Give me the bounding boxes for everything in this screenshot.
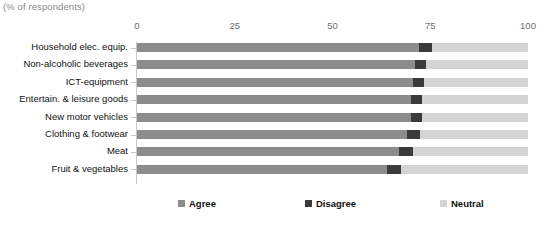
category-tick-mark (131, 135, 136, 136)
bar-segment-neutral (422, 95, 528, 104)
bar-segment-disagree (411, 95, 423, 104)
bar-segment-neutral (424, 78, 528, 87)
bar-row (137, 147, 528, 156)
bar-segment-agree (137, 95, 411, 104)
bar-row (137, 60, 528, 69)
bar-segment-agree (137, 60, 415, 69)
category-label: ICT-equipment (66, 77, 128, 87)
bar-segment-disagree (407, 130, 421, 139)
chart-legend: AgreeDisagreeNeutral (0, 198, 549, 214)
bar-row (137, 130, 528, 139)
category-tick-mark (131, 65, 136, 66)
legend-swatch-icon (440, 200, 447, 207)
bar-segment-neutral (422, 113, 528, 122)
bar-segment-disagree (419, 43, 433, 52)
category-label: New motor vehicles (45, 112, 128, 122)
category-tick-mark (131, 152, 136, 153)
x-axis-tick-labels: 0255075100 (137, 20, 528, 34)
category-axis-labels: Household elec. equip.Non-alcoholic beve… (0, 40, 133, 184)
category-label: Meat (107, 146, 128, 156)
bar-segment-neutral (420, 130, 528, 139)
legend-item-neutral[interactable]: Neutral (440, 198, 484, 209)
legend-item-agree[interactable]: Agree (178, 198, 216, 209)
bar-segment-agree (137, 165, 387, 174)
category-tick-mark (131, 117, 136, 118)
plot-area (137, 40, 528, 184)
bar-segment-disagree (399, 147, 413, 156)
category-label: Fruit & vegetables (51, 164, 128, 174)
bar-segment-agree (137, 130, 407, 139)
bar-segment-disagree (387, 165, 401, 174)
bar-segment-agree (137, 113, 411, 122)
bar-row (137, 78, 528, 87)
x-axis-tick-75: 75 (425, 20, 436, 31)
bar-row (137, 43, 528, 52)
bar-segment-disagree (411, 113, 423, 122)
bar-segment-agree (137, 78, 413, 87)
category-tick-mark (131, 169, 136, 170)
bar-segment-agree (137, 43, 419, 52)
category-tick-mark (131, 48, 136, 49)
bar-segment-disagree (413, 78, 425, 87)
stacked-bar-chart: (% of respondents) 0255075100 Household … (0, 0, 549, 225)
legend-label: Disagree (316, 198, 356, 209)
legend-swatch-icon (178, 200, 185, 207)
x-axis-tick-50: 50 (327, 20, 338, 31)
bar-segment-disagree (415, 60, 427, 69)
bar-segment-agree (137, 147, 399, 156)
x-axis-tick-100: 100 (520, 20, 536, 31)
category-label: Household elec. equip. (31, 42, 128, 52)
category-label: Entertain. & leisure goods (19, 94, 128, 104)
x-axis-tick-25: 25 (229, 20, 240, 31)
category-label: Non-alcoholic beverages (23, 59, 128, 69)
bar-segment-neutral (413, 147, 528, 156)
bar-row (137, 165, 528, 174)
legend-swatch-icon (305, 200, 312, 207)
category-tick-mark (131, 82, 136, 83)
bar-segment-neutral (426, 60, 528, 69)
bar-segment-neutral (401, 165, 528, 174)
legend-label: Neutral (451, 198, 484, 209)
category-label: Clothing & footwear (45, 129, 128, 139)
x-axis-tick-0: 0 (134, 20, 139, 31)
legend-item-disagree[interactable]: Disagree (305, 198, 356, 209)
category-tick-mark (131, 100, 136, 101)
bar-row (137, 95, 528, 104)
bar-segment-neutral (432, 43, 528, 52)
chart-subtitle: (% of respondents) (3, 1, 85, 12)
legend-label: Agree (189, 198, 216, 209)
bar-row (137, 113, 528, 122)
